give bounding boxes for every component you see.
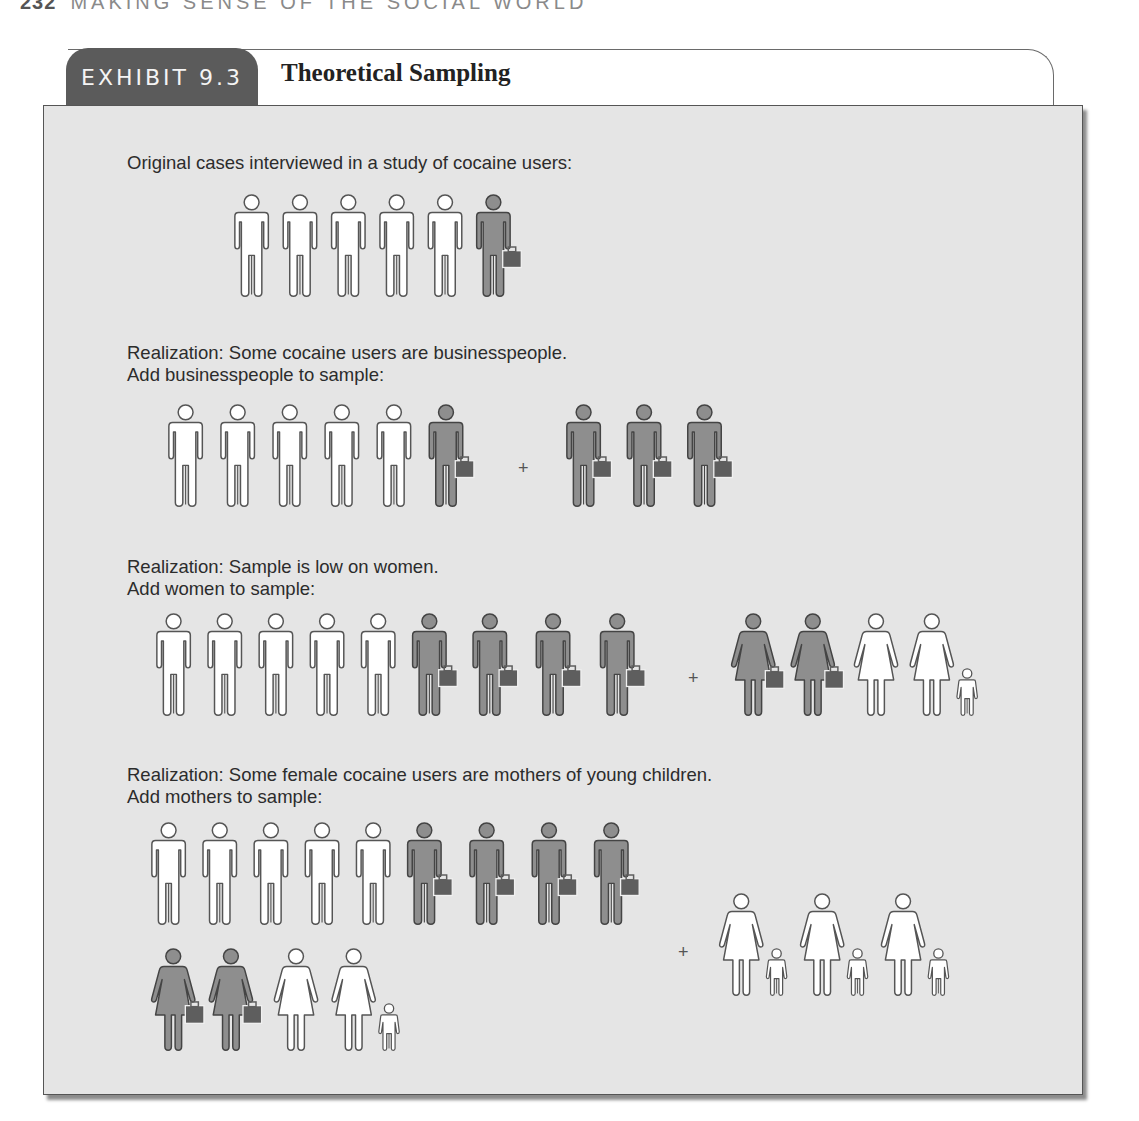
step-3-caption: Realization: Sample is low on women. Add… [127,556,439,600]
step-3-base-figures [155,613,675,722]
step-2-caption: Realization: Some cocaine users are busi… [127,342,567,386]
step-2-added-figures [565,404,765,513]
step-3-plus-sign: + [688,668,699,689]
step-1-caption-line-1: Original cases interviewed in a study of… [127,152,572,174]
step-4-added-figures [718,893,978,1002]
step-1-caption: Original cases interviewed in a study of… [127,152,572,174]
exhibit-label: EXHIBIT 9.3 [81,65,243,90]
step-2-caption-line-2: Add businesspeople to sample: [127,364,567,386]
step-2-plus-sign: + [518,458,529,479]
step-3-caption-line-2: Add women to sample: [127,578,439,600]
step-4-caption-line-1: Realization: Some female cocaine users a… [127,764,712,786]
step-4-caption-line-2: Add mothers to sample: [127,786,712,808]
step-4-caption: Realization: Some female cocaine users a… [127,764,712,808]
step-3-added-figures [730,613,1020,722]
step-1-figures [233,194,563,303]
man-figure-icon [428,195,461,296]
exhibit-label-tab: EXHIBIT 9.3 [66,48,258,106]
man-figure-icon [235,195,268,296]
running-head-text: MAKING SENSE OF THE SOCIAL WORLD [70,0,587,13]
exhibit-title: Theoretical Sampling [281,59,510,87]
step-4-base-figures-row-1 [150,822,650,931]
step-4-plus-sign: + [678,942,689,963]
running-head: 232MAKING SENSE OF THE SOCIAL WORLD [20,0,587,14]
man-figure-icon [332,195,365,296]
step-2-caption-line-1: Realization: Some cocaine users are busi… [127,342,567,364]
man-figure-icon [380,195,413,296]
man-figure-icon [283,195,316,296]
businessman-with-briefcase-icon [477,195,522,296]
step-3-caption-line-1: Realization: Sample is low on women. [127,556,439,578]
step-4-base-figures-row-2 [150,948,450,1057]
step-2-base-figures [167,404,497,513]
page-number: 232 [20,0,56,13]
